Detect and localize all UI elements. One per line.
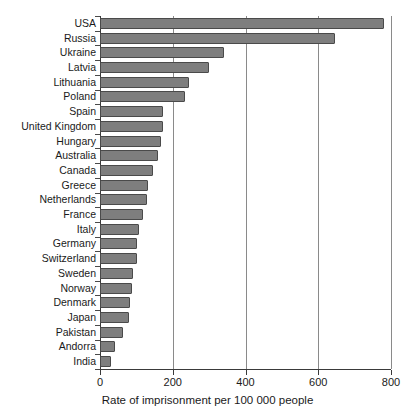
bar-pakistan xyxy=(100,327,123,338)
bar-row xyxy=(100,165,391,176)
bar-row xyxy=(100,268,391,279)
y-label-canada: Canada xyxy=(0,165,96,176)
bar-france xyxy=(100,209,143,220)
bar-japan xyxy=(100,312,129,323)
bar-row xyxy=(100,47,391,58)
bar-row xyxy=(100,297,391,308)
y-label-greece: Greece xyxy=(0,180,96,191)
y-tick xyxy=(95,310,100,311)
y-label-japan: Japan xyxy=(0,312,96,323)
y-label-ukraine: Ukraine xyxy=(0,47,96,58)
bar-spain xyxy=(100,106,163,117)
bar-netherlands xyxy=(100,194,147,205)
y-tick xyxy=(95,193,100,194)
y-label-pakistan: Pakistan xyxy=(0,327,96,338)
bar-row xyxy=(100,209,391,220)
bar-ukraine xyxy=(100,47,224,58)
y-tick xyxy=(95,148,100,149)
bar-latvia xyxy=(100,62,209,73)
imprisonment-rate-bar-chart: USARussiaUkraineLatviaLithuaniaPolandSpa… xyxy=(0,0,415,419)
bar-row xyxy=(100,77,391,88)
y-label-spain: Spain xyxy=(0,106,96,117)
x-tick-600 xyxy=(318,370,319,375)
x-axis-tick-labels: 0200400600800 xyxy=(0,376,415,390)
x-tick-400 xyxy=(246,370,247,375)
bar-row xyxy=(100,253,391,264)
y-label-india: India xyxy=(0,356,96,367)
bar-hungary xyxy=(100,136,161,147)
y-tick xyxy=(95,104,100,105)
y-tick xyxy=(95,222,100,223)
bar-sweden xyxy=(100,268,133,279)
y-tick xyxy=(95,251,100,252)
y-tick xyxy=(95,60,100,61)
y-label-germany: Germany xyxy=(0,238,96,249)
y-label-poland: Poland xyxy=(0,91,96,102)
y-tick xyxy=(95,45,100,46)
bar-row xyxy=(100,312,391,323)
y-label-denmark: Denmark xyxy=(0,297,96,308)
plot-area xyxy=(100,16,391,369)
bar-lithuania xyxy=(100,77,189,88)
y-label-russia: Russia xyxy=(0,33,96,44)
y-label-australia: Australia xyxy=(0,150,96,161)
y-label-france: France xyxy=(0,209,96,220)
y-tick xyxy=(95,237,100,238)
bar-norway xyxy=(100,283,132,294)
y-label-netherlands: Netherlands xyxy=(0,194,96,205)
y-axis-category-labels: USARussiaUkraineLatviaLithuaniaPolandSpa… xyxy=(0,16,96,369)
y-tick xyxy=(95,163,100,164)
y-label-usa: USA xyxy=(0,18,96,29)
y-label-switzerland: Switzerland xyxy=(0,253,96,264)
y-tick xyxy=(95,134,100,135)
bar-row xyxy=(100,327,391,338)
bar-canada xyxy=(100,165,153,176)
y-label-sweden: Sweden xyxy=(0,268,96,279)
bar-row xyxy=(100,194,391,205)
x-tick-label-200: 200 xyxy=(164,376,182,389)
y-tick xyxy=(95,119,100,120)
y-label-norway: Norway xyxy=(0,283,96,294)
bar-row xyxy=(100,121,391,132)
bar-united-kingdom xyxy=(100,121,163,132)
y-tick xyxy=(95,90,100,91)
bar-andorra xyxy=(100,341,115,352)
y-tick xyxy=(95,266,100,267)
y-label-italy: Italy xyxy=(0,224,96,235)
y-tick xyxy=(95,207,100,208)
y-tick xyxy=(95,16,100,17)
y-tick xyxy=(95,354,100,355)
bar-row xyxy=(100,106,391,117)
bar-row xyxy=(100,33,391,44)
bar-row xyxy=(100,18,391,29)
x-tick-label-800: 800 xyxy=(382,376,400,389)
bar-row xyxy=(100,180,391,191)
bar-india xyxy=(100,356,111,367)
bar-row xyxy=(100,136,391,147)
y-label-andorra: Andorra xyxy=(0,341,96,352)
y-tick xyxy=(95,295,100,296)
y-label-latvia: Latvia xyxy=(0,62,96,73)
y-tick xyxy=(95,325,100,326)
bar-row xyxy=(100,62,391,73)
x-tick-label-600: 600 xyxy=(309,376,327,389)
bar-row xyxy=(100,341,391,352)
bar-australia xyxy=(100,150,158,161)
gridline-800 xyxy=(391,16,392,369)
y-tick xyxy=(95,340,100,341)
bar-russia xyxy=(100,33,335,44)
bar-row xyxy=(100,91,391,102)
bar-italy xyxy=(100,224,139,235)
y-label-united-kingdom: United Kingdom xyxy=(0,121,96,132)
x-axis-title: Rate of imprisonment per 100 000 people xyxy=(0,394,415,406)
bar-usa xyxy=(100,18,384,29)
x-tick-label-0: 0 xyxy=(97,376,103,389)
bar-row xyxy=(100,238,391,249)
x-tick-label-400: 400 xyxy=(236,376,254,389)
bar-row xyxy=(100,224,391,235)
bar-switzerland xyxy=(100,253,137,264)
y-tick xyxy=(95,75,100,76)
bar-germany xyxy=(100,238,137,249)
y-tick xyxy=(95,281,100,282)
y-axis-ticks xyxy=(95,16,100,369)
